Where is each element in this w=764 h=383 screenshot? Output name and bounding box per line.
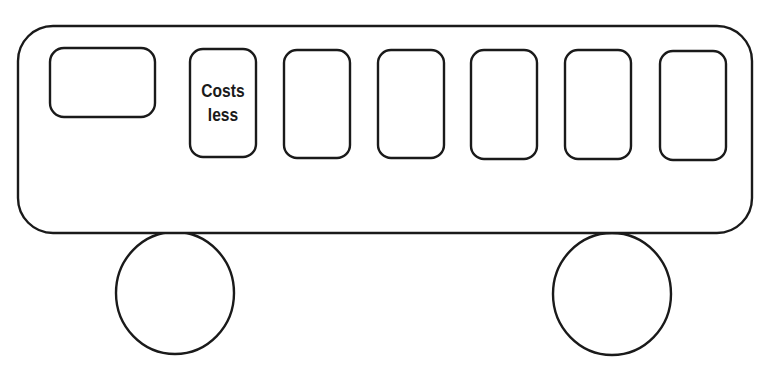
wheels <box>116 232 671 355</box>
wheel-left <box>116 232 234 354</box>
window-2 <box>284 50 350 158</box>
window-3 <box>378 50 444 158</box>
wheel-right <box>553 233 671 355</box>
window-6 <box>660 51 726 160</box>
window-1 <box>190 49 256 157</box>
window-4 <box>471 50 537 159</box>
window-5 <box>565 50 631 159</box>
bus-diagram: Costs less <box>0 0 764 383</box>
driver-window <box>50 48 155 117</box>
